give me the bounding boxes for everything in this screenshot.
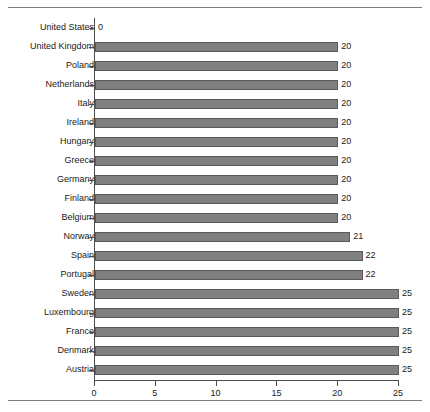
category-label-ireland: Ireland bbox=[8, 113, 94, 132]
bar-row: Poland20 bbox=[0, 56, 430, 75]
bar bbox=[95, 80, 338, 90]
y-axis-tick bbox=[89, 104, 94, 105]
category-label-austria: Austria bbox=[8, 360, 94, 379]
bar bbox=[95, 61, 338, 71]
bar-value-label: 20 bbox=[341, 94, 351, 113]
x-axis-tick bbox=[398, 381, 399, 386]
bar-row: Portugal22 bbox=[0, 265, 430, 284]
bar-row: Norway21 bbox=[0, 227, 430, 246]
bar-row: France25 bbox=[0, 322, 430, 341]
y-axis-tick bbox=[89, 161, 94, 162]
bar-row: Germany20 bbox=[0, 170, 430, 189]
bar-row: Greece20 bbox=[0, 151, 430, 170]
bar bbox=[95, 118, 338, 128]
bar-row: United States0 bbox=[0, 18, 430, 37]
y-axis-tick bbox=[89, 66, 94, 67]
category-label-united-kingdom: United Kingdom bbox=[8, 37, 94, 56]
bar-value-label: 20 bbox=[341, 56, 351, 75]
bar-row: Sweden25 bbox=[0, 284, 430, 303]
category-label-germany: Germany bbox=[8, 170, 94, 189]
bar bbox=[95, 308, 399, 318]
y-axis-tick bbox=[89, 85, 94, 86]
x-axis-tick bbox=[337, 381, 338, 386]
bar bbox=[95, 270, 363, 280]
bottom-divider-rule bbox=[8, 400, 422, 401]
bar-row: Belgium20 bbox=[0, 208, 430, 227]
category-label-france: France bbox=[8, 322, 94, 341]
bar-row: Denmark25 bbox=[0, 341, 430, 360]
bar-row: Hungary20 bbox=[0, 132, 430, 151]
x-axis-tick bbox=[276, 381, 277, 386]
y-axis-tick bbox=[89, 332, 94, 333]
bar bbox=[95, 99, 338, 109]
x-axis-tick-label: 25 bbox=[383, 387, 413, 399]
bar-value-label: 20 bbox=[341, 132, 351, 151]
bar-value-label: 22 bbox=[366, 246, 376, 265]
x-axis-tick-label: 0 bbox=[79, 387, 109, 399]
y-axis-tick bbox=[89, 370, 94, 371]
bar-row: Finland20 bbox=[0, 189, 430, 208]
category-label-luxembourg: Luxembourg bbox=[8, 303, 94, 322]
bar bbox=[95, 346, 399, 356]
bar-row: Luxembourg25 bbox=[0, 303, 430, 322]
bar-value-label: 20 bbox=[341, 170, 351, 189]
bar-value-label: 21 bbox=[353, 227, 363, 246]
bar bbox=[95, 327, 399, 337]
horizontal-bar-chart: United States0United Kingdom20Poland20Ne… bbox=[0, 14, 430, 394]
category-label-belgium: Belgium bbox=[8, 208, 94, 227]
bar-value-label: 25 bbox=[402, 303, 412, 322]
bar-row: Austria25 bbox=[0, 360, 430, 379]
bar-row: United Kingdom20 bbox=[0, 37, 430, 56]
bar-value-label: 20 bbox=[341, 208, 351, 227]
x-axis-tick-label: 20 bbox=[322, 387, 352, 399]
bar-value-label: 25 bbox=[402, 322, 412, 341]
y-axis-tick bbox=[89, 199, 94, 200]
top-divider-rule bbox=[8, 7, 422, 8]
bar bbox=[95, 42, 338, 52]
bar bbox=[95, 289, 399, 299]
y-axis-tick bbox=[89, 351, 94, 352]
x-axis-tick bbox=[216, 381, 217, 386]
x-axis-tick-label: 5 bbox=[140, 387, 170, 399]
category-label-norway: Norway bbox=[8, 227, 94, 246]
bar-value-label: 20 bbox=[341, 113, 351, 132]
x-axis-line bbox=[94, 380, 399, 381]
category-label-italy: Italy bbox=[8, 94, 94, 113]
category-label-spain: Spain bbox=[8, 246, 94, 265]
x-axis-tick bbox=[94, 381, 95, 386]
bar bbox=[95, 194, 338, 204]
bar bbox=[95, 175, 338, 185]
y-axis-tick bbox=[89, 275, 94, 276]
y-axis-tick bbox=[89, 142, 94, 143]
x-axis-tick bbox=[155, 381, 156, 386]
y-axis-tick bbox=[89, 123, 94, 124]
category-label-hungary: Hungary bbox=[8, 132, 94, 151]
x-axis-tick-label: 15 bbox=[261, 387, 291, 399]
bar-value-label: 20 bbox=[341, 151, 351, 170]
y-axis-tick bbox=[89, 237, 94, 238]
bar-value-label: 25 bbox=[402, 360, 412, 379]
bar-value-label: 20 bbox=[341, 75, 351, 94]
x-axis-tick-label: 10 bbox=[201, 387, 231, 399]
bar-row: Italy20 bbox=[0, 94, 430, 113]
bar bbox=[95, 137, 338, 147]
bar bbox=[95, 251, 363, 261]
bar bbox=[95, 232, 350, 242]
category-label-finland: Finland bbox=[8, 189, 94, 208]
category-label-denmark: Denmark bbox=[8, 341, 94, 360]
category-label-greece: Greece bbox=[8, 151, 94, 170]
y-axis-tick bbox=[89, 28, 94, 29]
bar-value-label: 0 bbox=[98, 18, 103, 37]
bar-row: Spain22 bbox=[0, 246, 430, 265]
category-label-portugal: Portugal bbox=[8, 265, 94, 284]
y-axis-tick bbox=[89, 313, 94, 314]
bar-value-label: 25 bbox=[402, 341, 412, 360]
bar-row: Netherlands20 bbox=[0, 75, 430, 94]
y-axis-tick bbox=[89, 47, 94, 48]
y-axis-tick bbox=[89, 218, 94, 219]
category-label-united-states: United States bbox=[8, 18, 94, 37]
bar-value-label: 25 bbox=[402, 284, 412, 303]
y-axis-tick bbox=[89, 294, 94, 295]
category-label-netherlands: Netherlands bbox=[8, 75, 94, 94]
bar bbox=[95, 213, 338, 223]
